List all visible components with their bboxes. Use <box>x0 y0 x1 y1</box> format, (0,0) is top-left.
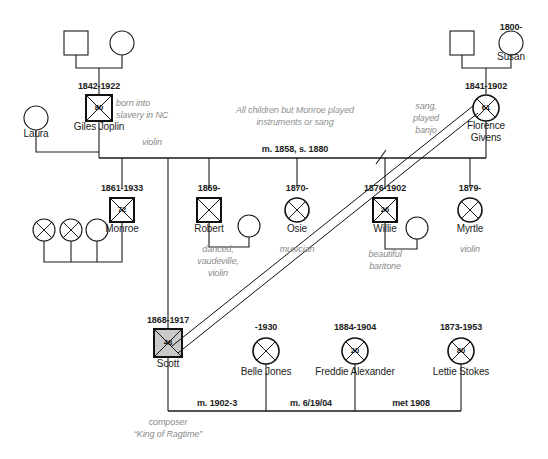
freddie-alexander-marriage: m. 6/19/04 <box>272 398 350 409</box>
laura-name: Laura <box>14 128 58 139</box>
scott-dates: 1868-1917 <box>132 315 204 326</box>
robert-note: danced, vaudeville, violin <box>186 243 250 279</box>
myrtle-note: violin <box>444 243 496 255</box>
lettie-stokes-age: 80 <box>450 347 472 355</box>
florence-age: 61 <box>475 104 497 112</box>
willie-age: 26 <box>374 206 396 214</box>
robert-spouse-symbol <box>238 215 260 237</box>
laura-symbol <box>24 106 48 130</box>
willie-spouse-symbol <box>406 217 428 239</box>
paternal-mother-circle <box>110 31 134 55</box>
center-note: All children but Monroe played instrumen… <box>205 104 385 128</box>
osie-note: musician <box>266 243 328 255</box>
osie-name: Osie <box>275 223 319 234</box>
lettie-stokes-dates: 1873-1953 <box>427 322 495 333</box>
myrtle-name: Myrtle <box>446 223 494 234</box>
monroe-name: Monroe <box>98 223 146 234</box>
monroe-dates: 1861-1933 <box>86 183 158 194</box>
scott-name: Scott <box>144 358 192 369</box>
willie-note: beautiful baritone <box>353 248 417 272</box>
willie-name: Willie <box>361 223 409 234</box>
freddie-alexander-dates: 1884-1904 <box>321 322 389 333</box>
florence-note: sang, played banjo <box>400 100 452 136</box>
belle-jones-marriage: m. 1902-3 <box>177 398 257 409</box>
main-marriage-label: m. 1858, s. 1880 <box>215 144 375 155</box>
florence-dates: 1841-1902 <box>450 81 522 92</box>
monroe-age: 72 <box>111 206 133 214</box>
susan-dates: 1800- <box>489 22 533 33</box>
giles-name: Giles Joplin <box>62 121 136 132</box>
robert-name: Robert <box>185 223 233 234</box>
susan-name: Susan <box>489 51 533 62</box>
scott-note: composer “King of Ragtime” <box>110 416 226 440</box>
belle-jones-name: Belle Jones <box>228 366 304 377</box>
freddie-alexander-age: 20 <box>344 347 366 355</box>
giles-age: 80 <box>88 104 110 112</box>
myrtle-dates: 1879- <box>446 183 494 194</box>
florence-name: Florence Givens <box>452 120 520 144</box>
willie-dates: 1876-1902 <box>349 183 421 194</box>
belle-jones-dates: -1930 <box>242 322 290 333</box>
scott-age: 48 <box>157 339 179 347</box>
osie-dates: 1870- <box>273 183 321 194</box>
lettie-stokes-marriage: met 1908 <box>374 398 448 409</box>
paternal-couple-line <box>76 55 122 68</box>
giles-note-violin: violin <box>117 136 187 148</box>
maternal-father-square <box>450 31 474 55</box>
genogram-canvas: 1800- Susan 1842-1922 80 Giles Joplin bo… <box>0 0 548 459</box>
giles-dates: 1842-1922 <box>63 81 135 92</box>
giles-note: born into slavery in NC <box>116 97 202 121</box>
freddie-alexander-name: Freddie Alexander <box>305 366 405 377</box>
lettie-stokes-name: Lettie Stokes <box>419 366 503 377</box>
paternal-father-square <box>64 31 88 55</box>
robert-dates: 1869- <box>185 183 233 194</box>
